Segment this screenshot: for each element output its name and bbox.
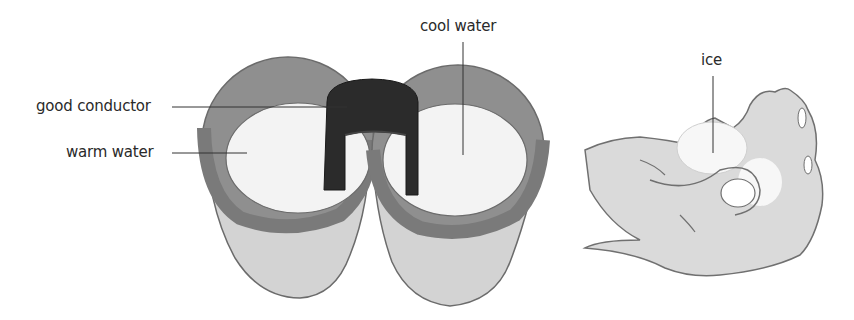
label-ice: ice (701, 53, 722, 68)
label-cool-water: cool water (420, 19, 496, 34)
hand-illustration (585, 88, 823, 275)
label-good-conductor: good conductor (36, 99, 151, 114)
label-warm-water: warm water (66, 145, 153, 160)
